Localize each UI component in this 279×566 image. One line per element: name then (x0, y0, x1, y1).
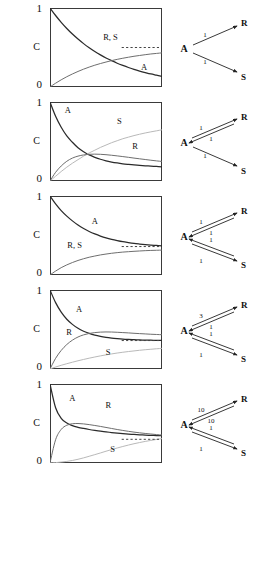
y-axis-label-min: 0 (28, 266, 42, 278)
y-axis-label-max: 1 (28, 284, 42, 296)
y-axis-label-max: 1 (28, 190, 42, 202)
mechanism-container: ARS111 (174, 104, 254, 180)
mechanism-diagram: ARS3111 (174, 292, 254, 368)
mech-k-a-to-r: 10 (198, 406, 206, 414)
y-axis-label-min: 0 (28, 454, 42, 466)
curve-s (50, 130, 162, 181)
y-axis-label-max: 1 (28, 96, 42, 108)
mechanism-container: ARS1111 (174, 198, 254, 274)
curve-label-a: A (141, 62, 148, 72)
curve-label-r: R (66, 327, 72, 337)
mech-k-r-to-a: 1 (209, 135, 213, 143)
mech-species-a: A (180, 419, 188, 430)
mech-k-s-to-a: 1 (199, 445, 203, 453)
mech-k-a-to-s: 1 (209, 236, 213, 244)
mechanism-diagram: ARS11 (174, 10, 254, 86)
mech-species-r: R (241, 206, 248, 216)
plot-curves: R, SA (50, 8, 162, 87)
mech-k-s-to-a: 1 (199, 351, 203, 359)
curve-a (50, 196, 162, 246)
mech-species-s: S (241, 354, 246, 364)
mechanism-diagram: ARS1111 (174, 198, 254, 274)
mechanism-container: ARS3111 (174, 292, 254, 368)
mech-species-s: S (241, 72, 246, 82)
mech-species-r: R (241, 394, 248, 404)
curve-r (50, 423, 162, 463)
mechanism-container: ARS11 (174, 10, 254, 86)
mech-species-a: A (180, 231, 188, 242)
mech-species-s: S (241, 166, 246, 176)
figure-caption: [기초적 가역 평행반응 에 대한 농도−시간 곡선] ARSk1k2k3k4 (0, 500, 279, 560)
plot-curves: ASR (50, 102, 162, 181)
mech-k-a-to-s: 1 (209, 424, 213, 432)
mech-species-r: R (241, 300, 248, 310)
mech-k-s-to-a: 1 (199, 257, 203, 265)
y-axis-label-c: C (26, 323, 40, 334)
curve-label-a: A (92, 216, 99, 226)
plot-panel: 1C0ARSARS3111 (0, 290, 279, 377)
plot-panel: 1C0ASRARS111 (0, 102, 279, 189)
plot-panel: 1C0R, SAARS11 (0, 8, 279, 95)
mech-k-a-to-r: 1 (203, 31, 207, 39)
curve-label-rs: R, S (67, 240, 82, 250)
curve-label-a: A (76, 304, 83, 314)
y-axis-label-c: C (26, 135, 40, 146)
y-axis-label-c: C (26, 41, 40, 52)
mech-species-r: R (241, 112, 248, 122)
mech-arrow-a-to-r (193, 26, 237, 45)
mech-k-a-to-s: 1 (203, 58, 207, 66)
mech-species-a: A (180, 325, 188, 336)
mech-species-a: A (180, 137, 188, 148)
mechanism-container: ARS101011 (174, 386, 254, 462)
mech-arrow-a-to-s (193, 53, 237, 72)
curve-rs (50, 250, 162, 275)
plot-panel: 1C0AR, SARS1111 (0, 196, 279, 283)
curve-a (50, 384, 162, 436)
mech-k-a-to-r: 1 (199, 218, 203, 226)
curve-label-s: S (110, 444, 115, 454)
y-axis-label-min: 0 (28, 172, 42, 184)
y-axis-label-max: 1 (28, 2, 42, 14)
y-axis-label-max: 1 (28, 378, 42, 390)
curve-label-a: A (65, 105, 72, 115)
plot-curves: AR, S (50, 196, 162, 275)
mech-species-r: R (241, 18, 248, 28)
curve-label-a: A (69, 393, 76, 403)
curve-s (50, 439, 162, 463)
mech-k-a-to-r: 1 (199, 124, 203, 132)
figure-root: 1C0R, SAARS111C0ASRARS1111C0AR, SARS1111… (0, 0, 279, 566)
y-axis-label-min: 0 (28, 78, 42, 90)
mech-species-a: A (180, 43, 188, 54)
plot-curves: ARS (50, 384, 162, 463)
curve-label-s: S (117, 116, 122, 126)
mech-k-a-to-r: 3 (199, 312, 203, 320)
mech-k-a-to-s: 1 (209, 330, 213, 338)
curve-label-s: S (106, 347, 111, 357)
y-axis-label-c: C (26, 417, 40, 428)
mechanism-diagram: ARS101011 (174, 386, 254, 462)
curve-label-r: R (132, 141, 138, 151)
plot-panel: 1C0ARSARS101011 (0, 384, 279, 471)
y-axis-label-min: 0 (28, 360, 42, 372)
plot-curves: ARS (50, 290, 162, 369)
mech-k-a-to-s: 1 (203, 152, 207, 160)
mech-species-s: S (241, 260, 246, 270)
y-axis-label-c: C (26, 229, 40, 240)
mechanism-diagram: ARS111 (174, 104, 254, 180)
curve-label-rs: R, S (103, 32, 118, 42)
mech-species-s: S (241, 448, 246, 458)
mech-arrow-a-to-s (193, 147, 237, 166)
curve-label-r: R (105, 400, 111, 410)
